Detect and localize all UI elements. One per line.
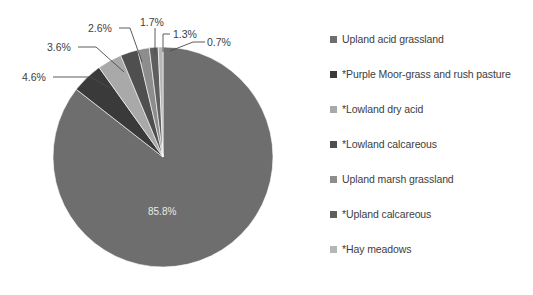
callout-0-7: 0.7% — [207, 36, 231, 48]
legend-label-0: Upland acid grassland — [342, 33, 444, 45]
legend-swatch-icon-2 — [330, 106, 337, 113]
legend-item-4[interactable]: Upland marsh grassland — [330, 173, 530, 208]
legend-label-3: *Lowland calcareous — [342, 138, 437, 150]
legend-item-5[interactable]: *Upland calcareous — [330, 208, 530, 243]
callout-1-3: 1.3% — [173, 28, 197, 40]
callout-4-6: 4.6% — [22, 71, 46, 83]
legend-label-6: *Hay meadows — [342, 243, 411, 255]
legend-label-2: *Lowland dry acid — [342, 103, 423, 115]
callout-85-8: 85.8% — [148, 206, 176, 217]
legend-swatch-icon-1 — [330, 71, 337, 78]
legend-swatch-icon-5 — [330, 211, 337, 218]
callout-1-7: 1.7% — [140, 16, 164, 28]
legend-swatch-icon-4 — [330, 176, 337, 183]
legend-label-5: *Upland calcareous — [342, 208, 431, 220]
legend-swatch-icon-6 — [330, 246, 337, 253]
legend-label-1: *Purple Moor-grass and rush pasture — [342, 68, 511, 80]
pie-slices — [53, 47, 273, 267]
pie-chart: 4.6% 3.6% 2.6% 1.7% 1.3% 0.7% 85.8% Upla… — [0, 0, 533, 295]
legend-item-6[interactable]: *Hay meadows — [330, 243, 530, 278]
legend-item-3[interactable]: *Lowland calcareous — [330, 138, 530, 173]
legend-item-2[interactable]: *Lowland dry acid — [330, 103, 530, 138]
chart-legend: Upland acid grassland *Purple Moor-grass… — [330, 33, 530, 278]
legend-item-0[interactable]: Upland acid grassland — [330, 33, 530, 68]
callout-3-6: 3.6% — [47, 41, 71, 53]
legend-swatch-icon-3 — [330, 141, 337, 148]
legend-label-4: Upland marsh grassland — [342, 173, 454, 185]
legend-item-1[interactable]: *Purple Moor-grass and rush pasture — [330, 68, 530, 103]
callout-2-6: 2.6% — [88, 22, 112, 34]
legend-swatch-icon-0 — [330, 36, 337, 43]
